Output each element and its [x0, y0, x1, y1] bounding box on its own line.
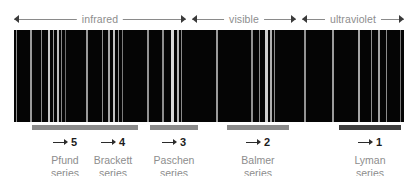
series-name-line1: Balmer — [241, 154, 274, 166]
series-name-line1: Brackett — [94, 154, 133, 166]
series-bar-paschen — [150, 125, 198, 130]
arrow-left-icon — [302, 15, 307, 23]
spectral-line — [270, 30, 272, 122]
series-caption-balmer: 2Balmerseries — [228, 136, 288, 176]
series-level-indicator: 3 — [146, 136, 202, 148]
spectral-line — [118, 30, 119, 122]
series-name-line2: series — [99, 167, 127, 177]
spectral-line — [53, 30, 54, 122]
arrow-right-icon — [162, 138, 177, 147]
arrow-right-icon — [101, 138, 116, 147]
series-name-line1: Paschen — [154, 154, 195, 166]
spectral-line — [122, 30, 123, 122]
arrow-right-icon — [358, 138, 373, 147]
spectral-line — [108, 30, 110, 122]
spectral-line — [304, 30, 306, 122]
region-label: infrared — [77, 12, 123, 27]
region-span-infrared: infrared — [14, 12, 186, 28]
spectral-line — [86, 30, 88, 122]
arrow-right-icon — [291, 15, 296, 23]
series-level-number: 1 — [376, 136, 382, 148]
series-caption-brackett: 4Brackettseries — [83, 136, 143, 176]
region-span-visible: visible — [192, 12, 296, 28]
arrow-left-icon — [14, 15, 19, 23]
spectral-line — [259, 30, 260, 122]
series-name-line1: Lyman — [354, 154, 385, 166]
spectral-line — [177, 30, 179, 122]
series-name: Brackettseries — [83, 154, 143, 176]
series-level-number: 4 — [119, 136, 125, 148]
spectral-line — [265, 30, 268, 122]
spectral-line — [171, 30, 174, 122]
spectral-line — [61, 30, 62, 122]
series-name: Balmerseries — [228, 154, 288, 176]
series-bar-lyman — [339, 125, 401, 130]
spectral-line — [16, 30, 17, 122]
spectral-line — [274, 30, 275, 122]
spectral-line — [30, 30, 32, 122]
spectral-line — [400, 30, 401, 122]
series-name-line2: series — [51, 167, 79, 177]
spectral-line — [181, 30, 182, 122]
spectral-line — [358, 30, 360, 122]
spectral-line — [386, 30, 387, 122]
arrow-right-icon — [399, 15, 404, 23]
series-level-indicator: 2 — [228, 136, 288, 148]
spectral-line — [216, 30, 218, 122]
arrow-right-icon — [181, 15, 186, 23]
spectral-line — [102, 30, 103, 122]
spectral-line — [371, 30, 372, 122]
series-name-line2: series — [356, 167, 384, 177]
series-bar-brackett — [88, 125, 138, 130]
region-label: visible — [224, 12, 264, 27]
series-name-line2: series — [244, 167, 272, 177]
series-level-number: 3 — [180, 136, 186, 148]
spectrum-band — [14, 30, 404, 122]
series-bar-balmer — [227, 125, 289, 130]
series-name-line1: Pfund — [51, 154, 78, 166]
spectral-line — [147, 30, 149, 122]
series-name: Lymanseries — [340, 154, 400, 176]
spectral-line — [57, 30, 59, 122]
series-caption-lyman: 1Lymanseries — [340, 136, 400, 176]
spectral-line — [162, 30, 164, 122]
series-level-number: 2 — [264, 136, 270, 148]
spectrum-figure: infraredvisibleultraviolet 5Pfundseries4… — [0, 0, 418, 176]
spectral-line — [48, 30, 50, 122]
region-span-ultraviolet: ultraviolet — [302, 12, 404, 28]
series-level-indicator: 1 — [340, 136, 400, 148]
spectral-line — [378, 30, 380, 122]
spectral-line — [41, 30, 42, 122]
arrow-right-icon — [246, 138, 261, 147]
series-level-number: 5 — [71, 136, 77, 148]
spectral-line — [251, 30, 253, 122]
arrow-left-icon — [192, 15, 197, 23]
series-level-indicator: 4 — [83, 136, 143, 148]
spectral-line — [113, 30, 115, 122]
arrow-right-icon — [53, 138, 68, 147]
region-label: ultraviolet — [325, 12, 381, 27]
spectral-line — [332, 30, 334, 122]
series-name-line2: series — [160, 167, 188, 177]
series-caption-paschen: 3Paschenseries — [146, 136, 202, 176]
series-name: Paschenseries — [146, 154, 202, 176]
spectral-line — [65, 30, 66, 122]
